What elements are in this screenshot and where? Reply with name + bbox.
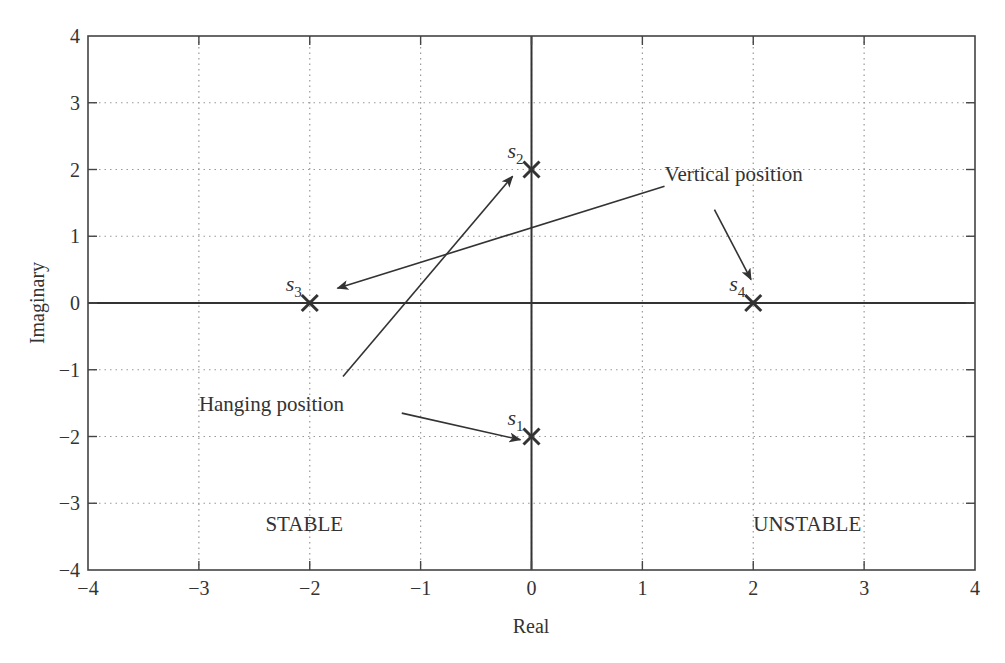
pole-marker-s3: s3 [286,271,318,311]
axes [88,36,975,570]
x-tick-label: −1 [410,577,431,599]
pole-label: s1 [508,405,524,434]
pole-label: s4 [729,271,746,300]
y-tick-label: 4 [70,25,80,47]
y-tick-label: −4 [59,559,80,581]
x-tick-label: 1 [637,577,647,599]
y-tick-label: 3 [70,92,80,114]
pole-label: s2 [508,138,524,167]
y-tick-label: 0 [70,292,80,314]
pole-marker-s2: s2 [508,138,540,178]
pole-label: s3 [286,271,302,300]
annotation-arrow [343,176,513,376]
y-tick-label: −3 [59,492,80,514]
y-tick-label: −2 [59,426,80,448]
x-tick-label: 4 [970,577,980,599]
pole-plot: −4−3−2−101234−4−3−2−101234 s1s2s3s4 Vert… [0,0,1005,663]
x-tick-label: 2 [748,577,758,599]
x-tick-label: −3 [188,577,209,599]
annotation-arrows [337,176,751,440]
annotation-hanging-position: Hanging position [199,392,345,416]
annotation-arrow [337,186,664,288]
x-tick-label: −4 [77,577,98,599]
pole-marker-s4: s4 [729,271,761,311]
annotation-vertical-position: Vertical position [665,162,804,186]
annotations: Vertical positionHanging positionSTABLEU… [199,162,861,536]
annotation-stable: STABLE [265,512,343,536]
x-tick-label: 0 [527,577,537,599]
y-tick-label: −1 [59,359,80,381]
x-axis-label: Real [513,615,550,637]
annotation-arrow [402,413,521,440]
annotation-unstable: UNSTABLE [753,512,861,536]
y-axis-label: Imaginary [26,262,49,344]
y-tick-label: 2 [70,159,80,181]
y-tick-label: 1 [70,225,80,247]
annotation-arrow [714,210,751,280]
x-tick-label: 3 [859,577,869,599]
x-tick-label: −2 [299,577,320,599]
